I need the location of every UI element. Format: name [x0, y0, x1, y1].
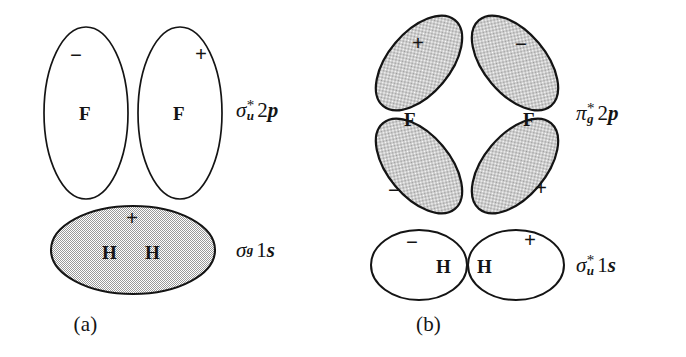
sign-plus-h-right: + — [524, 230, 536, 251]
panel-caption-b: (b) — [343, 312, 686, 337]
orbital-label-sigma-u-star-1s: σ*u1s — [576, 255, 616, 280]
atom-label-f-left: F — [79, 104, 91, 123]
shell-letter: s — [608, 253, 616, 277]
orbital-lobe-pi-top-right — [455, 0, 574, 126]
panel-caption-a: (a) — [0, 312, 343, 337]
shell-letter: p — [268, 98, 279, 122]
shell-number: 1 — [256, 238, 267, 262]
atom-label-f-right: F — [173, 104, 185, 123]
subscript-g: g — [587, 113, 594, 125]
orbital-label-sigma-u-star-2p: σ*u2p — [236, 100, 278, 125]
orbital-lobe-pi-top-left — [359, 0, 478, 126]
subscript-u: u — [587, 265, 594, 277]
shell-number: 2 — [257, 98, 268, 122]
sign-minus-pi-top-right: − — [515, 34, 527, 55]
superscript-asterisk: * — [247, 99, 255, 106]
shell-letter: s — [267, 238, 275, 262]
panel-b: + − − + F F H − H + π*g2p σ*u1s (b) — [343, 0, 686, 357]
atom-label-f-left: F — [404, 110, 416, 129]
sign-minus-f-left: − — [70, 45, 82, 66]
greek-sigma: σ — [576, 253, 586, 277]
sign-minus-h-left: − — [406, 232, 418, 253]
subscript-u: u — [247, 110, 254, 122]
atom-label-h-left: H — [436, 257, 451, 276]
sign-plus-f-right: + — [195, 44, 207, 65]
superscript-asterisk: * — [587, 254, 595, 261]
atom-label-h-left: H — [102, 243, 117, 262]
subscript-g: g — [247, 244, 254, 256]
sign-plus-pi-top-left: + — [412, 33, 424, 54]
panel-a: F − F + H H + σ*u2p σg1s (a) — [0, 0, 343, 357]
greek-sigma: σ — [236, 238, 246, 262]
sign-minus-pi-bottom-left: − — [388, 180, 400, 201]
orbital-label-sigma-g-1s: σg1s — [236, 240, 275, 261]
atom-label-f-right: F — [523, 110, 535, 129]
atom-label-h-right: H — [145, 243, 160, 262]
sign-plus-pi-bottom-right: + — [535, 178, 547, 199]
orbital-lobe-pi-bottom-left — [359, 103, 478, 229]
orbital-label-pi-g-star-2p: π*g2p — [576, 103, 619, 128]
superscript-asterisk: * — [587, 102, 595, 109]
molecular-orbital-figure: F − F + H H + σ*u2p σg1s (a) — [0, 0, 686, 357]
shell-number: 2 — [598, 101, 609, 125]
panel-a-diagram — [0, 0, 343, 357]
orbital-lobe-pi-bottom-right — [455, 103, 574, 229]
shell-number: 1 — [597, 253, 608, 277]
shell-letter: p — [608, 101, 619, 125]
atom-label-h-right: H — [477, 257, 492, 276]
greek-pi: π — [576, 101, 587, 125]
sign-plus-h-bonding: + — [126, 208, 138, 229]
greek-sigma: σ — [236, 98, 246, 122]
orbital-lobe-h-left — [371, 230, 467, 300]
